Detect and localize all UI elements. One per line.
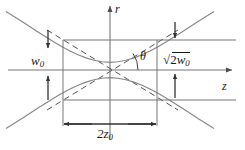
rayleigh-label: 2z0 [97,127,113,142]
divergence-angle-label: θ [140,50,146,62]
r-axis-label: r [115,3,120,15]
sqrt2-waist-label: √2w0 [163,52,190,68]
z-axis-label: z [222,80,227,92]
gaussian-beam-diagram: w0 √2w0 2z0 θ r z [0,0,245,150]
waist-label: w0 [31,54,44,69]
diagram-canvas [0,0,245,150]
